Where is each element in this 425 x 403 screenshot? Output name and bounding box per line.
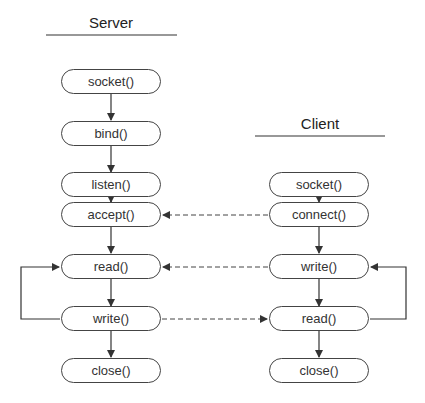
server-write-node: write() [61, 306, 161, 331]
client-write-node: write() [269, 254, 369, 279]
client-close-node: close() [269, 358, 369, 383]
client-connect-node: connect() [269, 202, 369, 227]
client-title: Client [270, 115, 370, 132]
server-socket-node: socket() [61, 69, 161, 94]
server-bind-node: bind() [61, 121, 161, 146]
client-read-node: read() [269, 306, 369, 331]
server-listen-node: listen() [61, 172, 161, 197]
diagram-connectors [0, 0, 425, 403]
server-title: Server [61, 14, 161, 31]
server-read-node: read() [61, 254, 161, 279]
server-close-node: close() [61, 358, 161, 383]
server-accept-node: accept() [61, 202, 161, 227]
client-socket-node: socket() [269, 172, 369, 197]
